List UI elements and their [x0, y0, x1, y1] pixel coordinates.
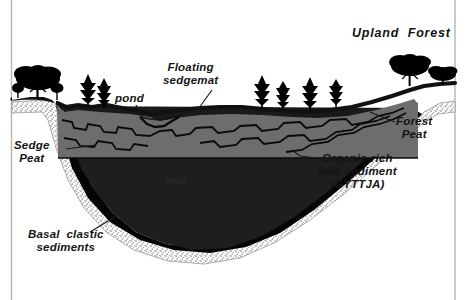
- basin-cross-section-diagram: [0, 0, 466, 300]
- label-pond: pond: [115, 92, 144, 105]
- label-sedge-peat: Sedge Peat: [14, 139, 50, 165]
- label-marl: Marl: [166, 176, 186, 186]
- label-basal-clastic-sediments: Basal clastic sediments: [28, 228, 104, 254]
- tree-conifer-1: [80, 74, 96, 106]
- label-upland-forest: Upland Forest: [352, 26, 451, 40]
- label-floating-sedgemat: Floating sedgemat: [163, 61, 218, 87]
- label-forest-peat: Forest Peat: [396, 115, 432, 141]
- figure-container: Upland Forest Floating sedgemat pond Sed…: [0, 0, 466, 300]
- tree-deciduous-upland-right: [389, 54, 431, 86]
- label-organic-rich-lake-sediment: Organic-rich lake sediment (GYTTJA): [318, 152, 397, 191]
